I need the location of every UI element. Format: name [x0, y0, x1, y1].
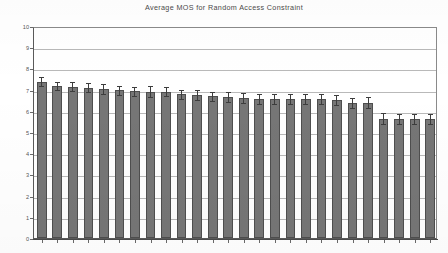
x-axis-line — [33, 239, 438, 240]
bar[interactable] — [146, 92, 156, 238]
bar[interactable] — [301, 99, 311, 238]
bar-group[interactable] — [99, 26, 109, 238]
bar-group[interactable] — [363, 26, 373, 238]
error-bar-line — [383, 113, 384, 124]
bar-group[interactable] — [239, 26, 249, 238]
x-axis-tick-mark — [197, 240, 198, 243]
x-axis-tick-mark — [321, 240, 322, 243]
error-bar-cap-bottom — [86, 92, 91, 93]
bar-group[interactable] — [192, 26, 202, 238]
bar[interactable] — [348, 103, 358, 238]
y-axis-tick-mark — [30, 112, 33, 113]
bar-group[interactable] — [410, 26, 420, 238]
bar-group[interactable] — [177, 26, 187, 238]
error-bar-line — [336, 95, 337, 105]
bar[interactable] — [332, 100, 342, 238]
error-bar-cap-top — [101, 84, 106, 85]
error-bar-line — [290, 94, 291, 104]
y-axis-tick-mark — [30, 175, 33, 176]
y-axis-tick-mark — [30, 27, 33, 28]
bar-group[interactable] — [84, 26, 94, 238]
bar-group[interactable] — [425, 26, 435, 238]
bar[interactable] — [317, 99, 327, 238]
y-axis-tick-label: 5 — [9, 130, 29, 136]
bar[interactable] — [208, 96, 218, 238]
error-bar-cap-top — [179, 90, 184, 91]
bar-group[interactable] — [223, 26, 233, 238]
error-bar-cap-bottom — [334, 105, 339, 106]
y-axis-tick-label: 1 — [9, 215, 29, 221]
bar-group[interactable] — [332, 26, 342, 238]
bar[interactable] — [394, 119, 404, 238]
error-bar-cap-bottom — [101, 94, 106, 95]
bar-group[interactable] — [348, 26, 358, 238]
error-bar-line — [228, 92, 229, 102]
error-bar-cap-top — [272, 94, 277, 95]
y-axis-tick-mark — [30, 48, 33, 49]
x-axis-tick-mark — [151, 240, 152, 243]
bar-group[interactable] — [37, 26, 47, 238]
error-bar-cap-bottom — [210, 101, 215, 102]
error-bar-cap-bottom — [366, 108, 371, 109]
bar[interactable] — [52, 86, 62, 238]
x-axis-tick-mark — [430, 240, 431, 243]
y-axis-tick-label: 4 — [9, 151, 29, 157]
y-axis-tick-label: 2 — [9, 194, 29, 200]
bar-group[interactable] — [379, 26, 389, 238]
bar[interactable] — [286, 99, 296, 238]
error-bar-cap-top — [288, 94, 293, 95]
bar[interactable] — [161, 92, 171, 238]
error-bar-line — [430, 114, 431, 124]
y-axis-tick-mark — [30, 69, 33, 70]
bar-group[interactable] — [394, 26, 404, 238]
error-bar-line — [399, 114, 400, 124]
error-bar-cap-top — [195, 90, 200, 91]
error-bar-cap-top — [55, 82, 60, 83]
bar[interactable] — [239, 98, 249, 238]
bar-group[interactable] — [52, 26, 62, 238]
error-bar-line — [166, 87, 167, 96]
bar[interactable] — [115, 90, 125, 238]
bar[interactable] — [410, 119, 420, 238]
bar-group[interactable] — [115, 26, 125, 238]
bar[interactable] — [270, 99, 280, 238]
error-bar-cap-bottom — [241, 103, 246, 104]
y-axis-tick-label: 8 — [9, 66, 29, 72]
bar-group[interactable] — [208, 26, 218, 238]
bar[interactable] — [379, 119, 389, 238]
bar-group[interactable] — [146, 26, 156, 238]
bar-group[interactable] — [130, 26, 140, 238]
x-axis-tick-mark — [228, 240, 229, 243]
y-axis-tick-label: 6 — [9, 109, 29, 115]
bar-group[interactable] — [270, 26, 280, 238]
error-bar-cap-top — [86, 83, 91, 84]
error-bar-line — [321, 94, 322, 104]
bar[interactable] — [223, 97, 233, 238]
bar[interactable] — [68, 87, 78, 238]
bar-group[interactable] — [301, 26, 311, 238]
bar[interactable] — [254, 99, 264, 238]
bar[interactable] — [425, 119, 435, 238]
bar-group[interactable] — [161, 26, 171, 238]
bar[interactable] — [84, 88, 94, 238]
chart-title: Average MOS for Random Access Constraint — [0, 3, 448, 12]
bar[interactable] — [99, 89, 109, 238]
bar-group[interactable] — [317, 26, 327, 238]
bar[interactable] — [130, 91, 140, 238]
error-bar-cap-bottom — [70, 91, 75, 92]
error-bar-cap-top — [366, 97, 371, 98]
bar[interactable] — [192, 95, 202, 238]
bar-group[interactable] — [68, 26, 78, 238]
error-bar-cap-bottom — [272, 104, 277, 105]
bar[interactable] — [37, 82, 47, 238]
bar[interactable] — [363, 103, 373, 238]
error-bar-cap-top — [412, 114, 417, 115]
bar-group[interactable] — [254, 26, 264, 238]
bar-group[interactable] — [286, 26, 296, 238]
error-bar-cap-top — [132, 87, 137, 88]
error-bar-cap-top — [164, 87, 169, 88]
bar[interactable] — [177, 94, 187, 238]
error-bar-line — [197, 90, 198, 100]
error-bar-cap-bottom — [39, 86, 44, 87]
error-bar-line — [181, 90, 182, 99]
